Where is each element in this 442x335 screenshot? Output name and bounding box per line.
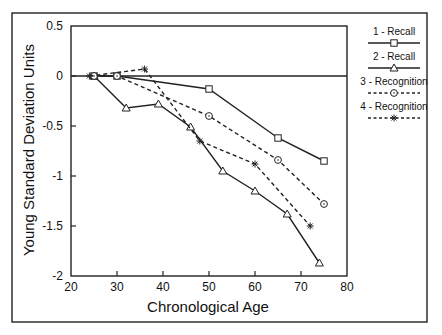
star-marker-icon	[307, 223, 314, 230]
y-tick-label: -1	[52, 169, 63, 183]
y-tick-label: -2	[52, 269, 63, 283]
series-3	[91, 73, 328, 208]
star-marker-icon	[86, 73, 93, 80]
x-tick-label: 50	[202, 280, 216, 294]
legend-item-2: 2 - Recall	[368, 51, 420, 71]
x-axis-title: Chronological Age	[147, 298, 269, 315]
legend-item-1: 1 - Recall	[368, 26, 420, 46]
y-tick-label: -1.5	[42, 219, 63, 233]
series-line	[94, 76, 324, 204]
square-marker-icon	[391, 40, 397, 46]
x-tick-label: 70	[294, 280, 308, 294]
circle-marker-icon	[275, 157, 282, 164]
y-tick-label: 0	[56, 69, 63, 83]
legend-label: 1 - Recall	[373, 26, 415, 37]
triangle-marker-icon	[283, 210, 291, 217]
triangle-marker-icon	[154, 100, 162, 107]
x-tick-label: 40	[156, 280, 170, 294]
legend-label: 2 - Recall	[373, 51, 415, 62]
x-tick-label: 80	[340, 280, 354, 294]
series-line	[89, 69, 310, 226]
legend-label: 4 - Recognition	[360, 101, 427, 112]
circle-marker-icon	[206, 113, 213, 120]
square-marker-icon	[275, 135, 281, 141]
circle-marker-icon	[114, 73, 121, 80]
chart-figure: 20304050607080 0.50-0.5-1-1.5-2 Chronolo…	[0, 0, 442, 335]
y-axis-title: Young Standard Deviation Units	[20, 44, 37, 256]
x-tick-label: 20	[64, 280, 78, 294]
square-marker-icon	[206, 86, 212, 92]
legend-item-4: 4 - Recognition	[360, 101, 427, 122]
legend-item-3: 3 - Recognition	[360, 76, 427, 96]
series-4	[86, 66, 314, 230]
star-marker-icon	[391, 115, 398, 122]
circle-marker-icon	[391, 90, 398, 97]
x-tick-label: 60	[248, 280, 262, 294]
triangle-marker-icon	[251, 187, 259, 194]
series-line	[94, 76, 319, 263]
legend: 1 - Recall2 - Recall3 - Recognition4 - R…	[360, 26, 427, 122]
star-marker-icon	[196, 138, 203, 145]
x-tick-label: 30	[110, 280, 124, 294]
y-tick-label: -0.5	[42, 119, 63, 133]
triangle-marker-icon	[315, 259, 323, 266]
series-group	[86, 66, 328, 267]
triangle-marker-icon	[187, 123, 195, 130]
circle-marker-icon	[321, 201, 328, 208]
square-marker-icon	[321, 158, 327, 164]
y-tick-label: 0.5	[46, 19, 63, 33]
star-marker-icon	[141, 66, 148, 73]
star-marker-icon	[252, 161, 259, 168]
x-axis: 20304050607080	[64, 271, 354, 294]
legend-label: 3 - Recognition	[360, 76, 427, 87]
